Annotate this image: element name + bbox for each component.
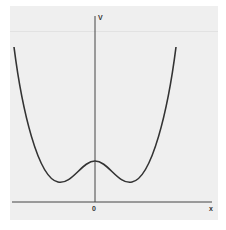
x-axis-label: x [209, 205, 213, 212]
origin-label: 0 [92, 205, 96, 212]
double-well-plot [0, 0, 226, 230]
y-axis-label: V [98, 14, 103, 21]
